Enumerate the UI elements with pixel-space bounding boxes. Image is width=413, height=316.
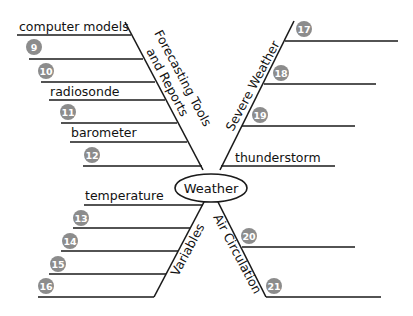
svg-text:14: 14 <box>63 236 77 247</box>
item-label: computer models <box>19 19 129 34</box>
item-label: temperature <box>85 188 164 203</box>
branch-title: Air Circulation <box>210 211 265 296</box>
badge-12: 12 <box>84 147 100 163</box>
item-label: radiosonde <box>50 84 120 99</box>
center-label: Weather <box>184 181 239 196</box>
svg-text:16: 16 <box>39 281 53 292</box>
svg-text:20: 20 <box>242 231 256 242</box>
svg-text:17: 17 <box>297 24 310 35</box>
svg-text:18: 18 <box>274 68 288 79</box>
badge-17: 17 <box>296 21 312 37</box>
svg-text:10: 10 <box>39 66 53 77</box>
badge-18: 18 <box>273 65 289 81</box>
branch-air-circulation: 20 21 Air Circulation <box>210 202 381 297</box>
badge-21: 21 <box>266 278 282 294</box>
svg-text:19: 19 <box>253 110 266 121</box>
svg-text:11: 11 <box>61 107 74 118</box>
branch-spine <box>220 21 294 170</box>
badge-16: 16 <box>38 278 54 294</box>
branch-title: Variables <box>167 221 207 278</box>
badge-15: 15 <box>50 256 66 272</box>
badge-10: 10 <box>38 63 54 79</box>
svg-text:13: 13 <box>74 213 87 224</box>
branch-variables: temperature 13 14 15 16 Variables <box>38 188 207 297</box>
branch-forecasting-tools: computer models 9 10 radiosonde 11 barom… <box>17 19 215 170</box>
badge-11: 11 <box>60 104 76 120</box>
svg-text:21: 21 <box>267 281 280 292</box>
svg-text:12: 12 <box>85 150 98 161</box>
branch-severe-weather: 17 18 19 thunderstorm Severe Weather <box>220 21 398 170</box>
item-label: thunderstorm <box>235 150 321 165</box>
badge-20: 20 <box>241 228 257 244</box>
badge-9: 9 <box>26 39 42 55</box>
fishbone-diagram: computer models 9 10 radiosonde 11 barom… <box>0 0 413 316</box>
svg-text:15: 15 <box>51 259 64 270</box>
badge-14: 14 <box>62 233 78 249</box>
badge-13: 13 <box>73 210 89 226</box>
center-node: Weather <box>175 174 247 202</box>
svg-text:9: 9 <box>31 42 38 53</box>
item-label: barometer <box>71 125 138 140</box>
badge-19: 19 <box>252 107 268 123</box>
